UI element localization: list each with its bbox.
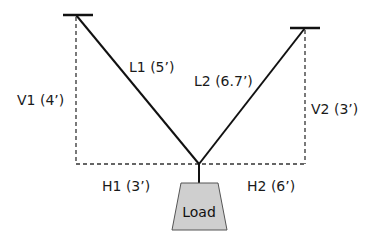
l2-label: L2 (6.7’) xyxy=(194,73,253,89)
cable-l2 xyxy=(199,28,305,164)
v2-label: V2 (3’) xyxy=(311,101,358,117)
load-label: Load xyxy=(182,204,216,220)
cable-l1 xyxy=(76,15,199,164)
v1-label: V1 (4’) xyxy=(17,92,64,108)
h2-label: H2 (6’) xyxy=(247,178,295,194)
h1-label: H1 (3’) xyxy=(102,178,150,194)
cable-diagram: Load L1 (5’) L2 (6.7’) V1 (4’) V2 (3’) H… xyxy=(0,0,376,244)
l1-label: L1 (5’) xyxy=(129,59,174,75)
